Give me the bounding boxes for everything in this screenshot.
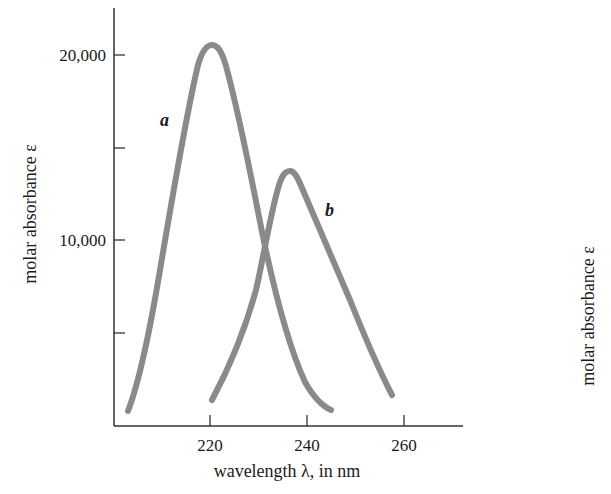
x-tick-label-260: 260	[391, 436, 417, 455]
y-ticks	[114, 55, 125, 333]
absorbance-chart: 20,000 10,000 220 240 260 wavelength λ, …	[0, 0, 611, 494]
y-axis-title: molar absorbance ε	[20, 144, 40, 284]
x-tick-label-240: 240	[294, 436, 320, 455]
x-ticks	[210, 415, 404, 426]
curve-b-label: b	[325, 200, 334, 220]
curve-b	[212, 171, 392, 400]
x-axis-title: wavelength λ, in nm	[214, 461, 361, 481]
curve-a-label: a	[160, 110, 169, 130]
curve-a	[128, 45, 331, 411]
y-axis-title-right: molar absorbance ε	[578, 246, 598, 386]
x-tick-label-220: 220	[197, 436, 223, 455]
y-tick-label-20000: 20,000	[59, 46, 106, 65]
y-tick-label-10000: 10,000	[59, 231, 106, 250]
